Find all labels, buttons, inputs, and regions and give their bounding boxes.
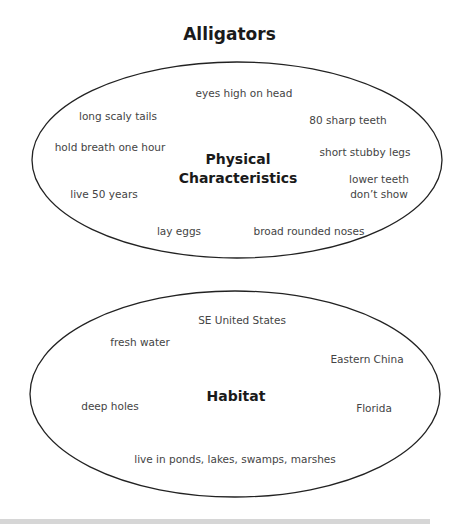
habitat-center-label: Habitat [207, 387, 266, 406]
physical-item: don’t show [350, 187, 408, 201]
habitat-item: deep holes [81, 399, 139, 413]
physical-item: 80 sharp teeth [309, 113, 386, 127]
physical-center-label-line1: Physical [205, 150, 270, 169]
habitat-item: Eastern China [330, 352, 403, 366]
physical-item: lay eggs [157, 224, 201, 238]
physical-item: hold breath one hour [55, 140, 166, 154]
bottom-gray-band [0, 519, 430, 524]
habitat-item: SE United States [198, 313, 286, 327]
habitat-item: live in ponds, lakes, swamps, marshes [134, 452, 336, 466]
habitat-item: Florida [356, 401, 392, 415]
physical-item: long scaly tails [79, 109, 157, 123]
physical-item: short stubby legs [320, 145, 411, 159]
habitat-item: fresh water [110, 335, 170, 349]
physical-item: live 50 years [70, 187, 137, 201]
physical-center-label-line2: Characteristics [179, 169, 298, 188]
physical-item: broad rounded noses [253, 224, 364, 238]
ellipse-layer [0, 0, 459, 524]
physical-item: lower teeth [349, 172, 409, 186]
physical-item: eyes high on head [196, 86, 293, 100]
